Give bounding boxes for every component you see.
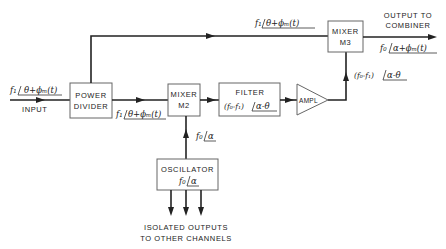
svg-text:FILTER: FILTER (236, 88, 265, 97)
block-diagram: INPUT f₁ θ+ϕₘ(t) POWER DIVIDER f₁ θ+ϕₘ(t… (0, 0, 446, 249)
svg-text:f₁: f₁ (9, 85, 17, 95)
svg-text:OSCILLATOR: OSCILLATOR (161, 165, 214, 174)
svg-text:f₀: f₀ (178, 176, 186, 186)
svg-text:θ+ϕₘ(t): θ+ϕₘ(t) (128, 109, 161, 119)
filter-to-amp-wire (280, 97, 297, 103)
svg-text:f₁: f₁ (254, 18, 262, 28)
output-wire (363, 34, 437, 40)
filter-block: FILTER (f₀-f₁) α-θ (219, 83, 280, 116)
arrow-icon (207, 97, 216, 103)
svg-text:M3: M3 (340, 38, 352, 47)
isolated-label-line1: ISOLATED OUTPUTS (144, 223, 228, 232)
pd-to-m2-wire (112, 97, 168, 103)
svg-text:α+ϕₘ(t): α+ϕₘ(t) (393, 43, 427, 53)
arrow-icon (206, 33, 215, 39)
oscillator-block: OSCILLATOR f₀ α (157, 159, 218, 190)
pd-m2-signal-label: f₁ θ+ϕₘ(t) (115, 109, 166, 119)
svg-text:α-θ: α-θ (387, 70, 401, 80)
amp-m3-signal-label: (f₀-f₁) α-θ (354, 70, 407, 80)
arrow-icon (198, 207, 204, 216)
svg-text:α-θ: α-θ (256, 101, 270, 111)
top-signal-label: f₁ θ+ϕₘ(t) (254, 18, 315, 28)
mixer-m2-block: MIXER M2 (168, 84, 200, 116)
mixer-m3-block: MIXER M3 (328, 21, 363, 52)
svg-text:MIXER: MIXER (332, 27, 359, 36)
svg-text:α: α (191, 176, 197, 186)
input-label: INPUT (22, 105, 48, 114)
svg-text:POWER: POWER (75, 91, 106, 100)
isolated-output-wires (168, 190, 204, 216)
svg-text:DIVIDER: DIVIDER (74, 102, 109, 111)
arrow-icon (343, 72, 349, 81)
arrow-icon (36, 97, 45, 103)
input-signal-label: f₁ θ+ϕₘ(t) (9, 85, 62, 95)
arrow-icon (168, 207, 174, 216)
svg-text:(f₀-f₁): (f₀-f₁) (224, 102, 244, 111)
amplifier-block: AMPL (297, 84, 328, 115)
input-wire (10, 97, 70, 103)
arrow-icon (285, 97, 294, 103)
svg-text:f₀: f₀ (379, 43, 387, 53)
output-signal-label: f₀ α+ϕₘ(t) (379, 43, 437, 53)
amp-to-m3-wire (328, 52, 349, 100)
arrow-icon (428, 34, 437, 40)
top-wire (91, 33, 328, 83)
svg-text:α: α (208, 131, 214, 141)
svg-text:f₁: f₁ (115, 109, 123, 119)
m2-to-filter-wire (200, 97, 219, 103)
output-label-line2: COMBINER (385, 21, 430, 30)
svg-text:MIXER: MIXER (171, 90, 198, 99)
power-divider-block: POWER DIVIDER (70, 83, 112, 118)
isolated-label-line2: TO OTHER CHANNELS (140, 234, 232, 243)
svg-text:θ+ϕₘ(t): θ+ϕₘ(t) (24, 85, 57, 95)
svg-text:θ+ϕₘ(t): θ+ϕₘ(t) (266, 18, 299, 28)
svg-text:M2: M2 (178, 101, 190, 110)
arrow-icon (183, 129, 189, 138)
output-label-line1: OUTPUT TO (384, 11, 432, 20)
svg-text:f₀: f₀ (195, 131, 203, 141)
arrow-icon (136, 97, 145, 103)
osc-to-m2-wire (183, 116, 189, 159)
svg-text:(f₀-f₁): (f₀-f₁) (354, 71, 374, 80)
osc-m2-signal-label: f₀ α (195, 131, 216, 141)
svg-text:AMPL: AMPL (299, 97, 318, 104)
arrow-icon (183, 207, 189, 216)
